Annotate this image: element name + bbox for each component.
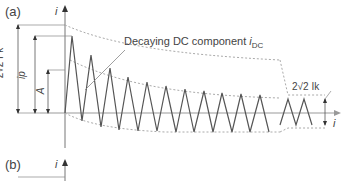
panel-a-label: (a) [5, 5, 21, 18]
dim-initial-label: 2√2 I″k [0, 48, 5, 79]
panel-b-label: (b) [5, 158, 21, 171]
y-axis-arrow-b [62, 159, 68, 166]
dim-A-label: A [36, 88, 46, 95]
dc-component-curve [70, 60, 280, 98]
steady-state-waveform [280, 99, 312, 125]
x-axis-arrow-a [334, 110, 341, 116]
dim-peak-label: ip [17, 71, 27, 79]
x-axis-label-a: i [333, 118, 335, 129]
y-axis-label-b: i [55, 159, 57, 170]
steady-lower [280, 128, 325, 132]
y-axis-arrow-a [62, 5, 68, 12]
y-axis-label-a: i [55, 6, 57, 17]
dc-annotation: Decaying DC component iDC [124, 36, 263, 50]
dim-steady-label: 2√2 Ik [292, 82, 319, 92]
